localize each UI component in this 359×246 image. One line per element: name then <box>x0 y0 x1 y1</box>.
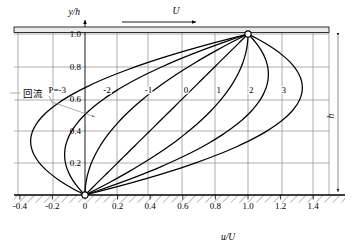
channel-height-label: h <box>326 113 336 118</box>
y-tick-label: 0.2 <box>70 158 81 168</box>
curve-label: -1 <box>145 85 153 95</box>
x-tick-label: -0.4 <box>13 201 28 211</box>
top-plate <box>14 27 329 33</box>
x-axis-title: u/U <box>221 232 236 242</box>
curve-label: 3 <box>282 85 287 95</box>
curve-label: P=-3 <box>49 85 67 95</box>
curve-label: 0 <box>184 85 189 95</box>
curve-label: 2 <box>249 85 254 95</box>
x-tick-label: 0.6 <box>177 201 189 211</box>
x-tick-label: -0.2 <box>45 201 59 211</box>
curve-label: -2 <box>103 85 111 95</box>
y-tick-label: 0.8 <box>70 62 82 72</box>
velocity-profile-figure: U y/h u/U -0.4-0.200.20.40.60.81.01.21.4… <box>0 0 359 246</box>
backflow-label: 回流 <box>23 88 43 99</box>
profile-endpoint-marker <box>82 192 88 198</box>
x-tick-label: 0.8 <box>210 201 222 211</box>
curve-label: 1 <box>216 85 221 95</box>
x-tick-label: 0.4 <box>145 201 157 211</box>
x-tick-label: 0 <box>83 201 88 211</box>
x-tick-label: 1.0 <box>242 201 254 211</box>
y-axis-title: y/h <box>67 7 80 17</box>
plate-velocity-label: U <box>173 6 181 16</box>
y-tick-label: 1.0 <box>70 29 82 39</box>
x-tick-label: 0.2 <box>112 201 123 211</box>
x-tick-label: 1.4 <box>308 201 320 211</box>
x-tick-label: 1.2 <box>275 201 286 211</box>
profile-endpoint-marker <box>245 31 251 37</box>
